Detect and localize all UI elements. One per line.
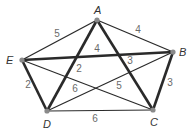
edge-d-b [47,52,173,111]
weight-label-a-c: 3 [127,55,133,66]
vertex-label-e: E [6,54,14,66]
vertex-label-c: C [150,116,158,128]
weight-label-a-e: 5 [54,28,60,39]
vertex-e [19,57,24,62]
vertex-b [170,49,175,54]
weight-label-a-d: 2 [76,63,82,74]
weight-label-e-c: 6 [72,83,78,94]
edge-d-c [47,110,153,111]
edges-layer [22,20,173,111]
weight-label-e-b: 4 [94,43,100,54]
weight-label-e-d: 2 [25,79,31,90]
vertex-label-b: B [179,46,186,58]
vertex-label-a: A [93,4,101,16]
vertex-label-d: D [43,118,51,130]
vertices-layer [19,17,175,113]
weight-label-d-b: 5 [116,80,122,91]
vertex-a [94,17,99,22]
weight-label-d-c: 6 [92,113,98,124]
weight-label-b-c: 3 [167,77,173,88]
vertex-c [150,107,155,112]
vertex-d [44,108,49,113]
weight-label-a-b: 4 [135,24,141,35]
weighted-graph: 5442332665 ABCDE [0,0,193,134]
